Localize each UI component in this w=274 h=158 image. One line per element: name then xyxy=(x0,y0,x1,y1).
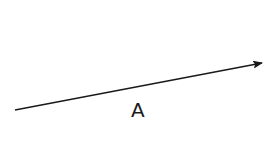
vector-label: A xyxy=(131,100,145,120)
vector-arrow-icon xyxy=(0,0,274,158)
